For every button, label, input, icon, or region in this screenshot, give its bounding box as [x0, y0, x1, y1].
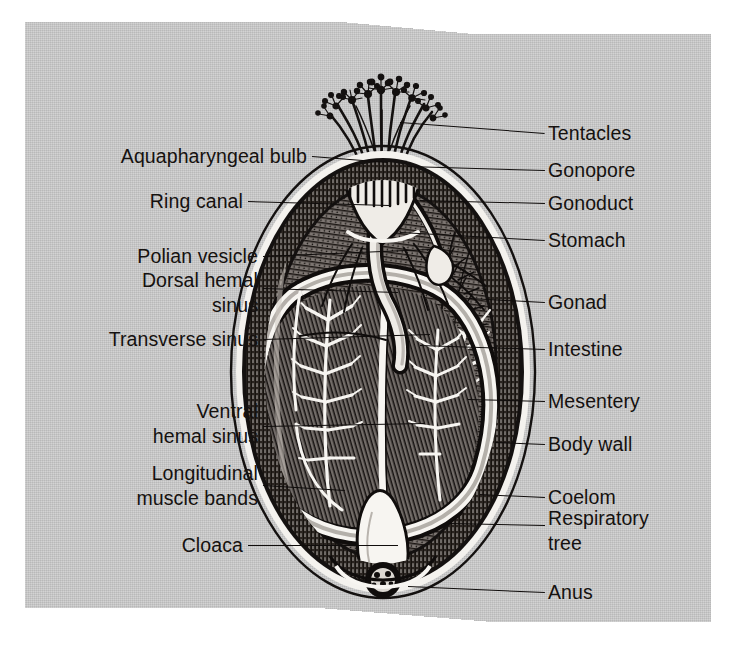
label-tentacles: Tentacles — [548, 121, 631, 146]
label-mesentery: Mesentery — [548, 389, 640, 414]
label-transverse-sinus: Transverse sinus — [109, 327, 258, 352]
label-gonoduct: Gonoduct — [548, 191, 633, 216]
label-cloaca: Cloaca — [182, 533, 243, 558]
leader-line-cloaca — [248, 545, 398, 546]
label-stomach: Stomach — [548, 228, 626, 253]
label-dorsal-hemal-sinus: Dorsal hemal sinus — [142, 268, 258, 318]
label-respiratory-tree: Respiratory tree — [548, 506, 649, 556]
label-aquapharyngeal-bulb: Aquapharyngeal bulb — [121, 144, 307, 169]
label-anus: Anus — [548, 580, 593, 605]
label-longitudinal-muscle-bands: Longitudinal muscle bands — [136, 461, 258, 511]
label-gonad: Gonad — [548, 290, 607, 315]
label-polian-vesicle: Polian vesicle — [137, 244, 258, 269]
label-gonopore: Gonopore — [548, 158, 636, 183]
label-intestine: Intestine — [548, 337, 623, 362]
label-ring-canal: Ring canal — [150, 189, 243, 214]
label-body-wall: Body wall — [548, 432, 632, 457]
anatomy-figure: Aquapharyngeal bulbRing canalPolian vesi… — [0, 0, 733, 668]
label-ventral-hemal-sinus: Ventral hemal sinus — [153, 399, 258, 449]
